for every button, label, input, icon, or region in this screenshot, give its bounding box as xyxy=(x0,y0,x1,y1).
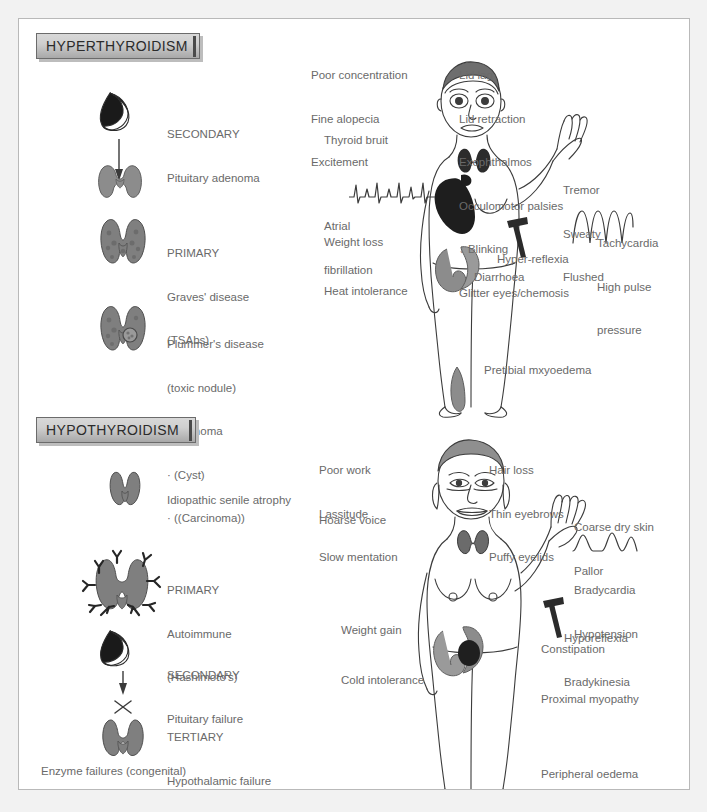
thyroid-bruit-label: Thyroid bruit xyxy=(324,133,388,148)
hypo-symptoms-right: Hair loss Thin eyebrows Puffy eyelids xyxy=(489,434,564,594)
cause-line: · ((Carcinoma)) xyxy=(167,511,264,526)
symptom-label: Thin eyebrows xyxy=(489,507,564,522)
cause-line: PRIMARY xyxy=(167,246,249,261)
badge-edge-accent xyxy=(189,420,192,441)
cause-line: Graves' disease xyxy=(167,290,249,305)
enzyme-failures-footnote: Enzyme failures (congenital) xyxy=(41,764,186,779)
symptom-label: Tremor xyxy=(563,183,604,198)
thyroid-antibodies-icon xyxy=(81,547,163,619)
thyroid-gland-icon xyxy=(97,215,149,271)
symptom-label: Glitter eyes/chemosis xyxy=(459,286,569,301)
cause-line: TERTIARY xyxy=(167,730,271,745)
hyper-symptoms-left: Poor concentration Fine alopecia Excitem… xyxy=(311,39,408,199)
section-badge-hypothyroidism: HYPOTHYROIDISM xyxy=(36,417,196,443)
hoarse-voice-label: Hoarse voice xyxy=(319,513,386,528)
cold-intolerance-label: Cold intolerance xyxy=(341,673,424,688)
symptom-label: fibrillation xyxy=(324,263,373,278)
cause-line: SECONDARY xyxy=(167,668,243,683)
pituitary-failure-icon xyxy=(92,627,148,667)
weight-gain-label: Weight gain xyxy=(341,623,402,638)
blocked-thyroid-icon xyxy=(97,669,149,757)
symptom-label: Poor concentration xyxy=(311,68,408,83)
section-badge-hypothyroidism-label: HYPOTHYROIDISM xyxy=(46,422,179,438)
thyroid-nodule-icon xyxy=(97,302,149,358)
cause-line: (toxic nodule) xyxy=(167,381,264,396)
symptom-label: Bradycardia xyxy=(574,583,638,598)
section-badge-hyperthyroidism: HYPERTHYROIDISM xyxy=(36,33,200,59)
pulse-signs-label: Tachycardia High pulse pressure xyxy=(597,207,658,367)
pituitary-adenoma-icon xyxy=(92,89,148,199)
symptom-label: Tachycardia xyxy=(597,236,658,251)
constipation-label: Constipation xyxy=(541,642,605,657)
symptom-label: Coarse dry skin xyxy=(574,520,654,535)
figure-panel: HYPERTHYROIDISM SECONDARY Pituitary aden… xyxy=(18,18,690,790)
cause-line: SECONDARY xyxy=(167,127,260,142)
proximal-myopathy-label: Proximal myopathy xyxy=(541,692,639,707)
cause-line: · (Cyst) xyxy=(167,468,264,483)
cause-line: PRIMARY xyxy=(167,583,238,598)
hypo-cause-idiopathic-label: Idiopathic senile atrophy xyxy=(167,493,291,508)
atrophic-thyroid-icon xyxy=(107,469,143,511)
pretibial-myxoedema-label: Pretibial mxyoedema xyxy=(484,363,591,378)
page-background: HYPERTHYROIDISM SECONDARY Pituitary aden… xyxy=(0,0,707,812)
symptom-label: pressure xyxy=(597,323,658,338)
symptom-label: Lid lag xyxy=(459,68,569,83)
cause-line: Pituitary adenoma xyxy=(167,171,260,186)
symptom-label: Hair loss xyxy=(489,463,564,478)
symptom-label: High pulse xyxy=(597,280,658,295)
peripheral-oedema-label: Peripheral oedema xyxy=(541,767,638,782)
symptom-label: Poor work xyxy=(319,463,398,478)
symptom-label: Puffy eyelids xyxy=(489,550,564,565)
symptom-label: Atrial xyxy=(324,219,373,234)
section-badge-hyperthyroidism-label: HYPERTHYROIDISM xyxy=(46,38,188,54)
hyper-reflexia-label: Hyper-reflexia xyxy=(497,252,569,267)
symptom-label: Lid retraction xyxy=(459,112,569,127)
symptom-label: Excitement xyxy=(311,155,408,170)
badge-edge-accent xyxy=(193,36,196,57)
hyper-symptoms-right: Lid lag Lid retraction Exophthalmos Occu… xyxy=(459,39,569,329)
heat-intolerance-label: Heat intolerance xyxy=(324,284,408,299)
symptom-label: Slow mentation xyxy=(319,550,398,565)
symptom-label: Exophthalmos xyxy=(459,155,569,170)
symptom-label: Occulomotor palsies xyxy=(459,199,569,214)
diarrhoea-label: Diarrhoea xyxy=(474,270,525,285)
symptom-label: Fine alopecia xyxy=(311,112,408,127)
cause-line: Plummer's disease xyxy=(167,337,264,352)
symptom-label: Bradykinesia xyxy=(564,675,630,690)
hyper-cause-secondary-label: SECONDARY Pituitary adenoma xyxy=(167,98,260,214)
weight-loss-label: Weight loss xyxy=(324,235,383,250)
